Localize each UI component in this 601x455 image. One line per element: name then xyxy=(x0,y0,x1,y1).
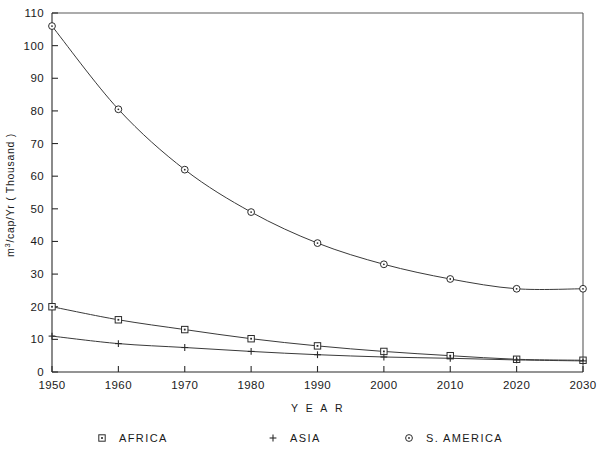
data-point-marker-dot xyxy=(51,25,53,27)
data-point-marker-dot xyxy=(184,329,186,331)
y-tick-label: 90 xyxy=(30,72,44,84)
y-axis-ticks: 0102030405060708090100110 xyxy=(24,7,58,378)
y-tick-label: 30 xyxy=(30,268,44,280)
plot-frame xyxy=(52,13,583,372)
x-tick-label: 1950 xyxy=(38,379,65,391)
x-axis-ticks: 195019601970198019902000201020202030 xyxy=(38,366,596,391)
legend-label: ASIA xyxy=(290,432,321,444)
x-tick-label: 1980 xyxy=(238,379,265,391)
legend-item-s-america: S. AMERICA xyxy=(406,432,503,444)
y-tick-label: 60 xyxy=(30,170,44,182)
legend-marker-square-dot xyxy=(101,437,103,439)
x-tick-label: 2010 xyxy=(437,379,464,391)
data-point-marker-dot xyxy=(449,278,451,280)
y-tick-label: 70 xyxy=(30,138,44,150)
x-tick-label: 2000 xyxy=(370,379,397,391)
data-point-marker-dot xyxy=(516,288,518,290)
y-tick-label: 0 xyxy=(37,366,44,378)
y-tick-label: 110 xyxy=(24,7,44,19)
chart-container: 0102030405060708090100110 19501960197019… xyxy=(0,0,601,455)
legend-marker-circle-dot xyxy=(408,437,410,439)
data-series-group xyxy=(49,23,587,365)
x-tick-label: 1970 xyxy=(171,379,198,391)
data-point-marker-dot xyxy=(184,169,186,171)
data-point-marker-dot xyxy=(317,242,319,244)
y-tick-label: 50 xyxy=(30,203,44,215)
legend-label: S. AMERICA xyxy=(426,432,503,444)
data-point-marker-dot xyxy=(317,345,319,347)
y-tick-label: 80 xyxy=(30,105,44,117)
x-tick-label: 2030 xyxy=(569,379,596,391)
data-point-marker-dot xyxy=(383,351,385,353)
data-point-marker-dot xyxy=(250,211,252,213)
series-line xyxy=(52,26,583,289)
x-tick-label: 1960 xyxy=(105,379,132,391)
data-point-marker-dot xyxy=(117,108,119,110)
y-axis-title-rest: /cap/Yr ( Thousand ) xyxy=(4,133,16,243)
series-s-america xyxy=(49,23,587,293)
data-point-marker-dot xyxy=(582,288,584,290)
x-axis-title: Y E A R xyxy=(291,402,345,414)
legend-label: AFRICA xyxy=(119,432,168,444)
legend-item-africa: AFRICA xyxy=(99,432,168,444)
legend-item-asia: ASIA xyxy=(270,432,321,444)
line-chart: 0102030405060708090100110 19501960197019… xyxy=(0,0,601,455)
svg-text:m3/cap/Yr ( Thousand ): m3/cap/Yr ( Thousand ) xyxy=(3,133,16,257)
x-tick-label: 2020 xyxy=(503,379,530,391)
chart-legend: AFRICAASIAS. AMERICA xyxy=(99,432,503,444)
data-point-marker-dot xyxy=(51,306,53,308)
y-axis-title: m3/cap/Yr ( Thousand ) xyxy=(3,133,16,257)
data-point-marker-dot xyxy=(117,319,119,321)
y-tick-label: 40 xyxy=(30,235,44,247)
data-point-marker-dot xyxy=(383,263,385,265)
y-axis-title-base: m xyxy=(4,247,16,256)
data-point-marker-dot xyxy=(250,338,252,340)
y-tick-label: 100 xyxy=(24,40,44,52)
x-tick-label: 1990 xyxy=(304,379,331,391)
y-tick-label: 20 xyxy=(30,301,44,313)
y-tick-label: 10 xyxy=(30,333,44,345)
